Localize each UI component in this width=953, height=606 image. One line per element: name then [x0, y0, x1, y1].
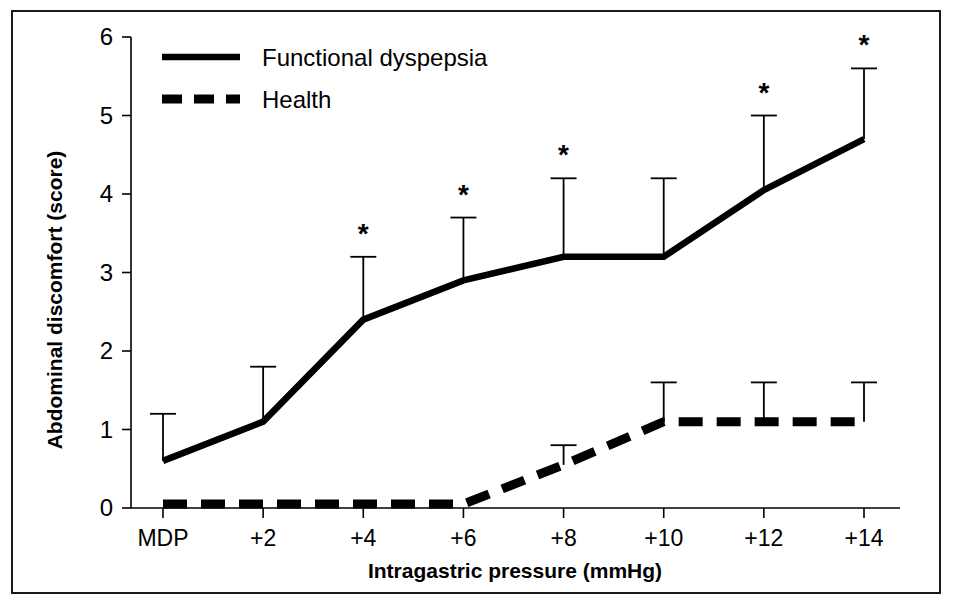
x-tick-label: +12 — [744, 525, 783, 551]
x-axis-title: Intragastric pressure (mmHg) — [368, 559, 662, 582]
y-tick-label: 6 — [100, 23, 113, 50]
x-tick-label: +2 — [250, 525, 276, 551]
chart-plot: 0123456 MDP+2+4+6+8+10+12+14 ***** Funct… — [0, 0, 953, 606]
y-tick-label: 4 — [100, 180, 113, 207]
x-tick-label: +10 — [644, 525, 683, 551]
x-tick-label: +4 — [350, 525, 376, 551]
figure-root: 0123456 MDP+2+4+6+8+10+12+14 ***** Funct… — [0, 0, 953, 606]
y-tick-label: 0 — [100, 494, 113, 521]
chart-legend: Functional dyspepsiaHealth — [162, 44, 488, 113]
series-lines — [163, 139, 864, 504]
y-tick-label: 5 — [100, 102, 113, 129]
y-axis-tick-labels: 0123456 — [100, 23, 113, 521]
y-tick-label: 1 — [100, 416, 113, 443]
x-tick-label: MDP — [137, 525, 188, 551]
x-tick-label: +6 — [450, 525, 476, 551]
x-tick-label: +14 — [844, 525, 883, 551]
series-line-0 — [163, 139, 864, 461]
y-tick-label: 2 — [100, 337, 113, 364]
significance-marker: * — [458, 179, 469, 210]
legend-label-1: Health — [262, 86, 331, 113]
series-line-1 — [163, 422, 864, 504]
x-tick-label: +8 — [550, 525, 576, 551]
significance-marker: * — [558, 139, 569, 170]
significance-marker: * — [358, 218, 369, 249]
legend-label-0: Functional dyspepsia — [262, 44, 488, 71]
y-tick-label: 3 — [100, 259, 113, 286]
x-axis-tick-labels: MDP+2+4+6+8+10+12+14 — [137, 525, 883, 551]
significance-marker: * — [859, 29, 870, 60]
x-axis-ticks — [163, 508, 864, 518]
significance-marker: * — [758, 77, 769, 108]
y-axis-ticks — [122, 37, 131, 508]
y-axis-title: Abdominal discomfort (score) — [43, 151, 66, 450]
